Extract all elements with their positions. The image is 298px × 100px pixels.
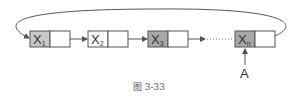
node-1-label: X (33, 32, 42, 47)
pointer-a-label: A (240, 66, 249, 81)
node-1-subscript: 1 (42, 40, 46, 47)
node-2-pointer-cell (108, 31, 128, 47)
node-2-subscript: 2 (100, 40, 104, 47)
node-3-subscript: 3 (160, 40, 164, 47)
node-n-pointer-cell (255, 31, 275, 47)
node-1-pointer-cell (50, 31, 70, 47)
node-2: X2 (88, 31, 128, 47)
node-1: X1 (30, 31, 70, 47)
node-3: X3 (148, 31, 188, 47)
node-n: Xn (235, 31, 275, 47)
figure-caption: 图 3-33 (0, 80, 298, 93)
node-n-subscript: n (247, 40, 251, 47)
node-3-pointer-cell (168, 31, 188, 47)
node-2-label: X (91, 32, 100, 47)
node-n-label: X (238, 32, 247, 47)
node-3-label: X (151, 32, 160, 47)
